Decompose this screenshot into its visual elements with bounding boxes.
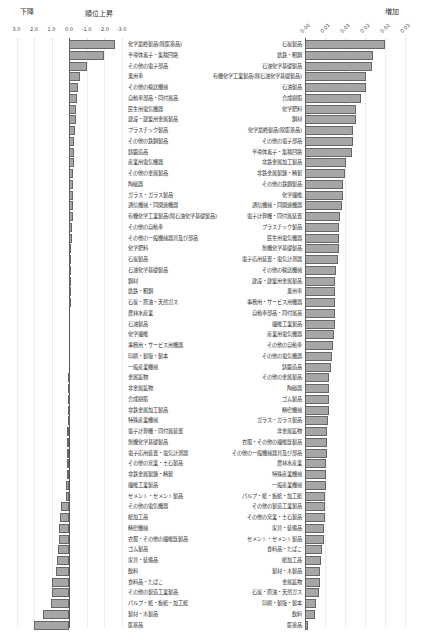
- category-label: 陶磁器: [128, 180, 143, 188]
- left-tick-label: 2.0: [30, 26, 38, 32]
- bar: [69, 51, 104, 60]
- bar: [305, 191, 343, 200]
- bar: [305, 180, 343, 189]
- left-tick-label: -2.0: [99, 26, 109, 32]
- category-label: 衣服・その他の繊維既製品: [242, 438, 302, 446]
- bar: [305, 524, 324, 533]
- category-label: 医薬品: [128, 621, 143, 629]
- bar: [69, 105, 76, 114]
- bar: [305, 169, 345, 178]
- right-tick-label: 0.01: [319, 22, 331, 34]
- bar: [69, 223, 72, 232]
- bar: [43, 610, 69, 619]
- category-label: 飲料: [292, 610, 302, 618]
- bar: [305, 406, 329, 415]
- gridline: [17, 38, 18, 628]
- bar: [305, 535, 324, 544]
- bar: [68, 395, 70, 404]
- bar: [69, 148, 74, 157]
- category-label: 化学最終製品(除医薬品): [128, 40, 182, 48]
- category-label: その他の窯業・土石製品: [128, 459, 183, 467]
- category-label: 合成樹脂: [128, 395, 148, 403]
- category-label: 鋼材: [128, 277, 138, 285]
- bar: [69, 94, 77, 103]
- left-tick-label: -1.0: [82, 26, 92, 32]
- category-label: パルプ・紙・板紙・加工紙: [128, 599, 188, 607]
- bar: [69, 169, 73, 178]
- category-label: 陶磁器: [287, 384, 302, 392]
- bar: [60, 513, 69, 522]
- bar: [68, 416, 70, 425]
- bar: [61, 502, 69, 511]
- category-label: 電子応用装置・電気計測器: [128, 449, 188, 457]
- bar: [68, 384, 70, 393]
- category-label: 食料品・たばこ: [267, 545, 302, 553]
- category-label: その他の一般機械器具及び部品: [232, 449, 302, 457]
- category-label: その他の電子部品: [128, 62, 168, 70]
- category-label: 化学最終製品(除医薬品): [248, 126, 302, 134]
- bar: [69, 287, 71, 296]
- category-label: プラスチック製品: [262, 223, 302, 231]
- category-label: その他の輸送機械: [128, 83, 168, 91]
- category-label: 鋳鍛造品: [128, 148, 148, 156]
- left-title-down: 下降: [20, 6, 34, 16]
- category-label: その他の自動車: [267, 341, 302, 349]
- bar: [305, 72, 366, 81]
- category-label: その他の電気機器: [128, 502, 168, 510]
- bar: [305, 298, 335, 307]
- category-label: その他の電子部品: [262, 137, 302, 145]
- bar: [305, 567, 320, 576]
- bar: [305, 223, 339, 232]
- bar: [305, 277, 335, 286]
- category-label: 繊維工業製品: [272, 320, 302, 328]
- bar: [305, 492, 325, 501]
- bar: [59, 535, 70, 544]
- bar: [305, 255, 338, 264]
- bar: [305, 148, 352, 157]
- category-label: 通信機械・同関連機器: [128, 201, 178, 209]
- bar: [305, 395, 329, 404]
- bar: [305, 94, 361, 103]
- bar: [305, 126, 353, 135]
- bar: [69, 126, 75, 135]
- category-label: 非鉄金属加工製品: [128, 406, 168, 414]
- bar: [305, 320, 335, 329]
- bar: [305, 62, 372, 71]
- category-label: 銑鉄・粗鋼: [277, 51, 302, 59]
- category-label: 半導体素子・集積回路: [128, 51, 178, 59]
- bar: [305, 610, 315, 619]
- category-label: 石炭・原油・天然ガス: [128, 298, 178, 306]
- category-label: 民生用電気機器: [267, 234, 302, 242]
- bar: [52, 588, 70, 597]
- left-title-up: 順位上昇: [85, 8, 113, 18]
- bar: [69, 180, 73, 189]
- category-label: 石炭・原油・天然ガス: [252, 588, 302, 596]
- bar: [67, 470, 69, 479]
- category-label: 化学繊維: [128, 330, 148, 338]
- category-label: 食料品・たばこ: [128, 578, 163, 586]
- bar: [51, 599, 69, 608]
- bar: [305, 330, 334, 339]
- category-label: 自動車部品・同付属品: [128, 94, 178, 102]
- category-label: ガラス・ガラス製品: [128, 191, 173, 199]
- right-tick-label: 0.00: [299, 22, 311, 34]
- category-label: 精密機械: [282, 406, 302, 414]
- bar: [305, 373, 329, 382]
- category-label: 非金属鉱物: [128, 384, 153, 392]
- category-label: 有機化学工業製品(除石油化学基礎製品): [128, 212, 217, 220]
- category-label: 合成樹脂: [282, 94, 302, 102]
- category-label: 印刷・製版・製本: [128, 352, 168, 360]
- category-label: 事務用・サービス用機器: [247, 298, 302, 306]
- category-label: 飲料: [128, 567, 138, 575]
- bar: [67, 427, 69, 436]
- category-label: 一般産業機械: [128, 363, 158, 371]
- bar: [69, 266, 71, 275]
- category-label: 石油製品: [282, 83, 302, 91]
- category-label: 乗用車: [128, 72, 143, 80]
- bar: [305, 513, 325, 522]
- bar: [69, 201, 73, 210]
- category-label: その他の一般機械器具及び部品: [128, 234, 198, 242]
- category-label: 電子計算機・同付属装置: [247, 212, 302, 220]
- bar: [69, 244, 71, 253]
- bar: [305, 51, 373, 60]
